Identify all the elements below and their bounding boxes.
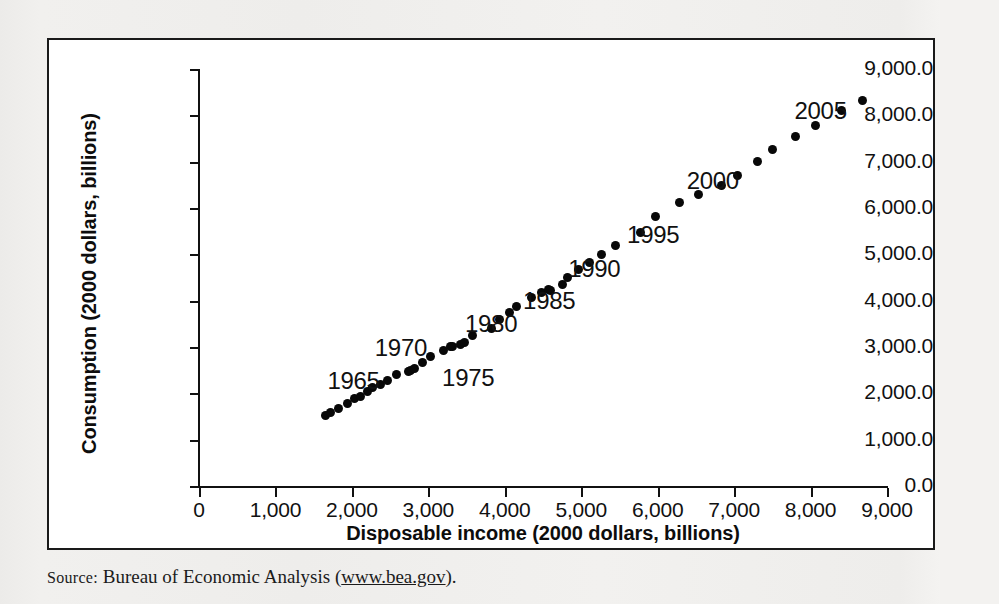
y-tick bbox=[190, 301, 199, 303]
x-tick bbox=[428, 488, 430, 497]
source-label: Source: bbox=[47, 569, 98, 586]
y-tick bbox=[190, 69, 199, 71]
source-line: Source: Bureau of Economic Analysis (www… bbox=[47, 566, 457, 588]
x-tick bbox=[811, 488, 813, 497]
x-tick bbox=[505, 488, 507, 497]
year-annotation: 1995 bbox=[627, 221, 679, 249]
data-point bbox=[410, 364, 419, 373]
x-tick bbox=[581, 488, 583, 497]
data-point bbox=[651, 212, 660, 221]
source-text: Bureau of Economic Analysis ( bbox=[98, 566, 341, 587]
y-tick-label: 6,000.0 bbox=[829, 195, 933, 219]
year-annotation: 2005 bbox=[795, 97, 847, 125]
data-point bbox=[791, 132, 800, 141]
y-tick-label: 0.0 bbox=[829, 473, 933, 497]
y-tick bbox=[190, 440, 199, 442]
data-point bbox=[334, 404, 343, 413]
y-tick-label: 9,000.0 bbox=[829, 56, 933, 80]
x-tick bbox=[887, 488, 889, 497]
year-annotation: 2000 bbox=[687, 167, 739, 195]
year-annotation: 1965 bbox=[327, 367, 379, 395]
year-annotation: 1980 bbox=[465, 310, 517, 338]
y-tick-label: 5,000.0 bbox=[829, 241, 933, 265]
data-point bbox=[426, 352, 435, 361]
x-tick bbox=[658, 488, 660, 497]
plot-area: 0.01,000.02,000.03,000.04,000.05,000.06,… bbox=[49, 40, 933, 548]
y-tick-label: 7,000.0 bbox=[829, 149, 933, 173]
x-tick bbox=[275, 488, 277, 497]
y-tick bbox=[190, 162, 199, 164]
data-point bbox=[383, 376, 392, 385]
year-annotation: 1985 bbox=[523, 287, 575, 315]
x-tick bbox=[199, 488, 201, 497]
page-margin-band bbox=[940, 0, 999, 604]
y-tick bbox=[190, 254, 199, 256]
data-point bbox=[768, 145, 777, 154]
x-axis-line bbox=[198, 486, 888, 488]
year-annotation: 1970 bbox=[375, 334, 427, 362]
year-annotation: 1990 bbox=[568, 255, 620, 283]
y-tick bbox=[190, 393, 199, 395]
data-point bbox=[392, 370, 401, 379]
y-tick-label: 1,000.0 bbox=[829, 427, 933, 451]
y-tick bbox=[190, 208, 199, 210]
y-tick-label: 4,000.0 bbox=[829, 288, 933, 312]
y-tick-label: 2,000.0 bbox=[829, 380, 933, 404]
source-url-link[interactable]: www.bea.gov bbox=[341, 566, 445, 587]
data-point bbox=[611, 241, 620, 250]
x-axis-title: Disposable income (2000 dollars, billion… bbox=[198, 522, 888, 545]
x-tick-label: 9,000 bbox=[842, 498, 932, 522]
y-tick bbox=[190, 115, 199, 117]
year-annotation: 1975 bbox=[442, 364, 494, 392]
source-suffix: ). bbox=[446, 566, 457, 587]
y-tick bbox=[190, 486, 199, 488]
data-point bbox=[460, 338, 469, 347]
data-point bbox=[675, 198, 684, 207]
y-tick-label: 3,000.0 bbox=[829, 334, 933, 358]
data-point bbox=[753, 157, 762, 166]
y-axis-line bbox=[198, 69, 200, 488]
y-axis-title: Consumption (2000 dollars, billions) bbox=[78, 69, 101, 499]
y-tick bbox=[190, 347, 199, 349]
x-tick bbox=[734, 488, 736, 497]
x-tick bbox=[352, 488, 354, 497]
figure-frame: 0.01,000.02,000.03,000.04,000.05,000.06,… bbox=[47, 38, 935, 550]
